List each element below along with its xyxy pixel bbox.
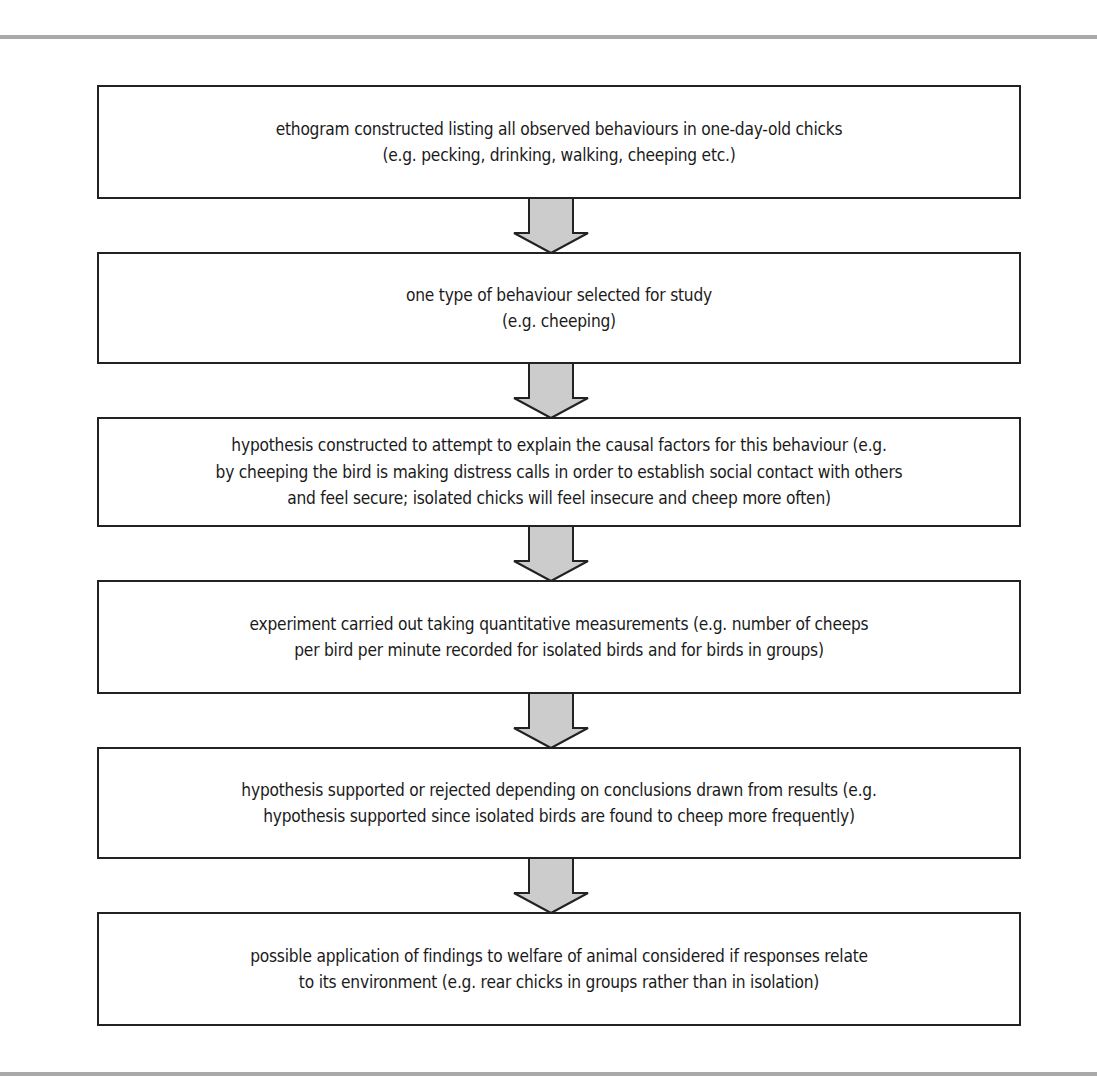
step-text-line: ethogram constructed listing all observe…	[276, 119, 843, 139]
step-text-line: possible application of findings to welf…	[250, 946, 868, 966]
down-arrow-icon	[512, 197, 590, 255]
step-text-line: hypothesis constructed to attempt to exp…	[231, 435, 886, 455]
down-arrow-icon	[512, 857, 590, 915]
down-arrow-icon	[512, 692, 590, 750]
step-text-line: and feel secure; isolated chicks will fe…	[287, 488, 831, 508]
flow-step-conclusion: hypothesis supported or rejected dependi…	[97, 747, 1021, 859]
flow-step-experiment: experiment carried out taking quantitati…	[97, 580, 1021, 694]
step-text-line: experiment carried out taking quantitati…	[250, 614, 869, 634]
step-text-line: one type of behaviour selected for study	[406, 285, 712, 305]
step-text: hypothesis constructed to attempt to exp…	[145, 432, 973, 512]
step-text-line: to its environment (e.g. rear chicks in …	[299, 972, 819, 992]
step-text: possible application of findings to welf…	[145, 943, 973, 996]
flow-step-welfare-application: possible application of findings to welf…	[97, 912, 1021, 1026]
flow-step-behaviour-selection: one type of behaviour selected for study…	[97, 252, 1021, 364]
top-divider-rule	[0, 35, 1097, 39]
bottom-divider-rule	[0, 1072, 1097, 1076]
step-text: one type of behaviour selected for study…	[145, 282, 973, 335]
flow-step-hypothesis: hypothesis constructed to attempt to exp…	[97, 417, 1021, 527]
down-arrow-icon	[512, 525, 590, 583]
step-text-line: by cheeping the bird is making distress …	[216, 462, 903, 482]
down-arrow-icon	[512, 362, 590, 420]
step-text-line: (e.g. pecking, drinking, walking, cheepi…	[382, 145, 735, 165]
step-text-line: hypothesis supported or rejected dependi…	[241, 780, 876, 800]
step-text: ethogram constructed listing all observe…	[145, 116, 973, 169]
step-text-line: hypothesis supported since isolated bird…	[263, 806, 854, 826]
step-text-line: (e.g. cheeping)	[502, 311, 616, 331]
step-text: hypothesis supported or rejected dependi…	[145, 777, 973, 830]
flow-step-ethogram: ethogram constructed listing all observe…	[97, 85, 1021, 199]
step-text: experiment carried out taking quantitati…	[145, 611, 973, 664]
step-text-line: per bird per minute recorded for isolate…	[294, 640, 823, 660]
